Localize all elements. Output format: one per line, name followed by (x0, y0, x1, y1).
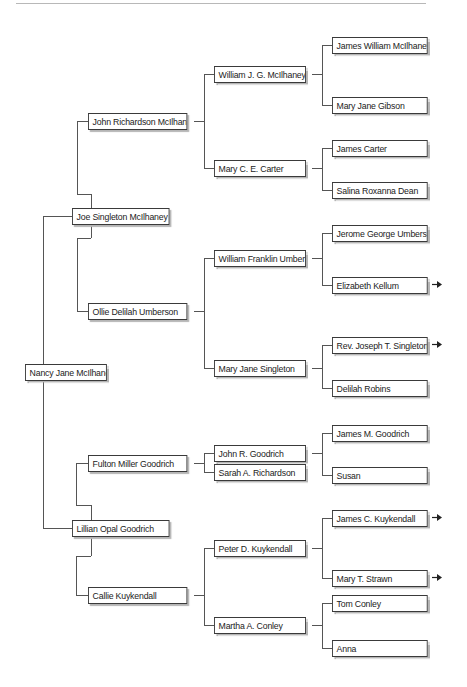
connector (76, 463, 88, 464)
connector (76, 463, 77, 505)
connector (204, 472, 214, 473)
person-box-gen4[interactable]: Mary Jane Gibson (332, 97, 428, 114)
person-box-paternal-grandfather[interactable]: John Richardson McIlhaney (88, 113, 187, 130)
connector (43, 528, 72, 529)
connector (322, 648, 332, 649)
connector (76, 556, 91, 557)
person-box-gen4[interactable]: James C. Kuykendall (332, 510, 428, 527)
connector (322, 578, 332, 579)
person-box-gen4[interactable]: James M. Goodrich (332, 425, 428, 442)
connector (77, 238, 91, 239)
connector (204, 548, 214, 549)
connector (312, 258, 322, 259)
connector (76, 505, 91, 506)
connector (322, 345, 332, 346)
connector (312, 625, 322, 626)
person-box-maternal-grandmother[interactable]: Callie Kuykendall (88, 587, 187, 604)
connector (77, 121, 88, 122)
connector (322, 433, 332, 434)
connector (43, 216, 72, 217)
connector (91, 224, 92, 238)
person-box-paternal-grandmother[interactable]: Ollie Delilah Umberson (88, 303, 187, 320)
connector (322, 285, 332, 286)
connector (77, 121, 78, 194)
person-box-maternal-grandfather[interactable]: Fulton Miller Goodrich (88, 455, 187, 472)
connector (91, 194, 92, 208)
person-box-gen3[interactable]: William J. G. McIlhaney (214, 66, 306, 83)
person-box-gen3[interactable]: Martha A. Conley (214, 617, 306, 634)
person-box-gen3[interactable]: Peter D. Kuykendall (214, 540, 306, 557)
connector (194, 311, 204, 312)
person-box-gen4[interactable]: Elizabeth Kellum (332, 277, 428, 294)
connector (312, 368, 322, 369)
person-box-gen3[interactable]: Sarah A. Richardson (214, 464, 306, 481)
person-box-gen4[interactable]: Mary T. Strawn (332, 570, 428, 587)
person-box-gen4[interactable]: Jerome George Umberson (332, 225, 428, 242)
connector (322, 45, 323, 105)
connector (322, 190, 332, 191)
connector (322, 475, 332, 476)
connector (76, 595, 88, 596)
connector (312, 453, 322, 454)
arrow-right-icon[interactable] (432, 340, 442, 349)
connector (322, 603, 332, 604)
connector (77, 311, 88, 312)
connector (91, 536, 92, 556)
connector (312, 548, 322, 549)
person-box-father[interactable]: Joe Singleton McIlhaney Sr. (72, 208, 170, 225)
connector (204, 453, 214, 454)
connector (312, 74, 322, 75)
connector (204, 625, 214, 626)
person-box-gen4[interactable]: Delilah Robins (332, 380, 428, 397)
person-box-gen3[interactable]: William Franklin Umberson (214, 250, 306, 267)
person-box-gen4[interactable]: Rev. Joseph T. Singleton (332, 337, 428, 354)
connector (76, 556, 77, 595)
connector (77, 194, 91, 195)
person-box-gen4[interactable]: James Carter (332, 140, 428, 157)
connector (322, 233, 332, 234)
connector (77, 238, 78, 311)
connector (204, 74, 205, 168)
connector (194, 463, 204, 464)
connector (204, 168, 214, 169)
person-box-gen3[interactable]: John R. Goodrich (214, 445, 306, 462)
connector (322, 603, 323, 648)
arrow-right-icon[interactable] (432, 513, 442, 522)
connector (322, 233, 323, 285)
connector (91, 505, 92, 520)
connector (322, 433, 323, 475)
connector (322, 148, 323, 190)
connector (322, 388, 332, 389)
connector (204, 258, 214, 259)
arrow-right-icon[interactable] (432, 280, 442, 289)
connector (204, 74, 214, 75)
person-box-gen4[interactable]: Salina Roxanna Dean (332, 182, 428, 199)
top-rule (16, 3, 426, 4)
connector (194, 595, 204, 596)
person-box-gen4[interactable]: Anna (332, 640, 428, 657)
connector (322, 45, 332, 46)
connector (322, 518, 332, 519)
connector (322, 518, 323, 578)
person-box-mother[interactable]: Lillian Opal Goodrich (72, 520, 170, 537)
person-box-gen3[interactable]: Mary C. E. Carter (214, 160, 306, 177)
connector (204, 453, 205, 472)
connector (204, 258, 205, 368)
person-box-root[interactable]: Nancy Jane McIlhaney (25, 364, 107, 381)
connector (322, 345, 323, 388)
person-box-gen4[interactable]: Susan (332, 467, 428, 484)
connector (322, 105, 332, 106)
person-box-gen4[interactable]: Tom Conley (332, 595, 428, 612)
arrow-right-icon[interactable] (432, 573, 442, 582)
connector (194, 121, 204, 122)
connector (322, 148, 332, 149)
person-box-gen4[interactable]: James William McIlhaney (332, 37, 428, 54)
connector (312, 168, 322, 169)
connector (204, 368, 214, 369)
connector (204, 548, 205, 625)
person-box-gen3[interactable]: Mary Jane Singleton (214, 360, 306, 377)
